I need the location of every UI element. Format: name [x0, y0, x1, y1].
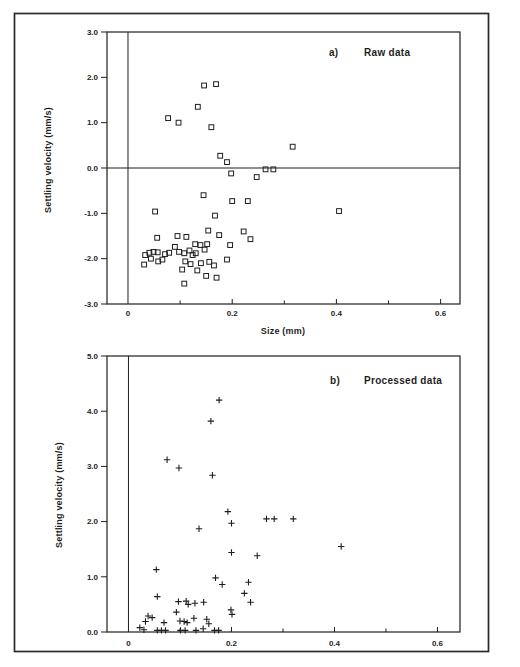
data-point-plus: [241, 590, 247, 596]
panel-label: b): [330, 375, 340, 386]
y-axis-tick-label: -2.0: [84, 254, 98, 263]
data-point-square: [205, 242, 210, 247]
data-point-square: [182, 251, 187, 256]
data-point-square: [218, 153, 223, 158]
data-point-square: [337, 209, 342, 214]
data-point-plus: [219, 581, 225, 587]
data-point-square: [195, 104, 200, 109]
x-axis-tick-label: 0.6: [432, 639, 444, 648]
data-point-plus: [154, 593, 160, 599]
x-axis-tick-label: 0.4: [329, 639, 341, 648]
scatter-plot-raw-data: 3.02.01.00.0-1.0-2.0-3.000.20.40.6a)Raw …: [43, 28, 460, 336]
data-point-square: [153, 209, 158, 214]
data-point-square: [230, 199, 235, 204]
figure-page: 3.02.01.00.0-1.0-2.0-3.000.20.40.6a)Raw …: [0, 0, 520, 667]
x-axis-tick-label: 0.6: [435, 309, 447, 318]
data-point-square: [214, 275, 219, 280]
data-point-plus: [263, 516, 269, 522]
data-point-plus: [173, 609, 179, 615]
data-point-square: [229, 171, 234, 176]
data-point-square: [172, 244, 177, 249]
data-point-plus: [176, 465, 182, 471]
data-point-plus: [177, 618, 183, 624]
data-point-plus: [142, 618, 148, 624]
figure-border: [15, 14, 489, 652]
data-point-square: [201, 193, 206, 198]
y-axis-tick-label: 0.0: [87, 164, 99, 173]
panel-title: Processed data: [364, 375, 442, 386]
axis-frame: [107, 356, 460, 632]
data-point-plus: [228, 520, 234, 526]
data-point-square: [248, 237, 253, 242]
y-axis-tick-label: 3.0: [87, 462, 99, 471]
y-axis-tick-label: 0.0: [87, 628, 99, 637]
data-point-square: [193, 251, 198, 256]
y-axis-title: Settling velocity (mm/s): [54, 442, 64, 548]
data-point-plus: [164, 457, 170, 463]
data-point-square: [228, 243, 233, 248]
data-point-plus: [161, 619, 167, 625]
data-point-square: [254, 175, 259, 180]
data-point-square: [245, 199, 250, 204]
y-axis-tick-label: 2.0: [87, 73, 99, 82]
data-point-square: [184, 235, 189, 240]
x-axis-title: Size (mm): [261, 326, 305, 336]
data-point-square: [175, 234, 180, 239]
y-axis-tick-label: 3.0: [87, 28, 99, 37]
data-point-square: [182, 281, 187, 286]
data-point-square: [180, 267, 185, 272]
data-point-square: [241, 229, 246, 234]
data-point-square: [202, 83, 207, 88]
data-point-plus: [338, 543, 344, 549]
data-point-square: [212, 263, 217, 268]
data-point-square: [155, 235, 160, 240]
data-point-square: [214, 82, 219, 87]
data-point-square: [199, 261, 204, 266]
data-point-square: [206, 228, 211, 233]
data-point-square: [217, 233, 222, 238]
data-point-plus: [196, 526, 202, 532]
x-axis-tick-label: 0.2: [227, 309, 239, 318]
data-point-square: [207, 259, 212, 264]
y-axis-tick-label: 1.0: [87, 118, 99, 127]
data-point-plus: [212, 575, 218, 581]
data-points: [142, 82, 342, 286]
scatter-figure-canvas: 3.02.01.00.0-1.0-2.0-3.000.20.40.6a)Raw …: [0, 0, 520, 667]
data-point-square: [225, 257, 230, 262]
data-points: [137, 397, 345, 634]
data-point-plus: [216, 397, 222, 403]
data-point-square: [290, 144, 295, 149]
panel-title: Raw data: [364, 47, 410, 58]
data-point-square: [149, 256, 154, 261]
x-axis-tick-label: 0.4: [331, 309, 343, 318]
data-point-square: [193, 242, 198, 247]
panel-label: a): [329, 47, 339, 58]
data-point-plus: [290, 516, 296, 522]
y-axis-tick-label: 5.0: [87, 352, 99, 361]
data-point-plus: [228, 607, 234, 613]
y-axis-tick-label: 2.0: [87, 517, 99, 526]
data-point-square: [195, 268, 200, 273]
data-point-square: [213, 213, 218, 218]
data-point-square: [176, 120, 181, 125]
data-point-square: [142, 262, 147, 267]
data-point-plus: [192, 600, 198, 606]
scatter-plot-processed-data: 5.04.03.02.01.00.000.20.40.6b)Processed …: [54, 352, 460, 648]
y-axis-tick-label: 1.0: [87, 573, 99, 582]
data-point-plus: [271, 516, 277, 522]
y-axis-tick-label: -1.0: [84, 209, 98, 218]
y-axis-tick-label: -3.0: [84, 300, 98, 309]
data-point-plus: [184, 619, 190, 625]
data-point-plus: [153, 566, 159, 572]
data-point-plus: [200, 625, 206, 631]
data-point-square: [177, 249, 182, 254]
data-point-plus: [247, 599, 253, 605]
data-point-plus: [145, 613, 151, 619]
data-point-plus: [254, 553, 260, 559]
data-point-plus: [229, 611, 235, 617]
x-axis-tick-label: 0.2: [226, 639, 238, 648]
data-point-square: [183, 259, 188, 264]
x-axis-tick-label: 0: [126, 639, 131, 648]
data-point-plus: [191, 615, 197, 621]
data-point-plus: [245, 579, 251, 585]
